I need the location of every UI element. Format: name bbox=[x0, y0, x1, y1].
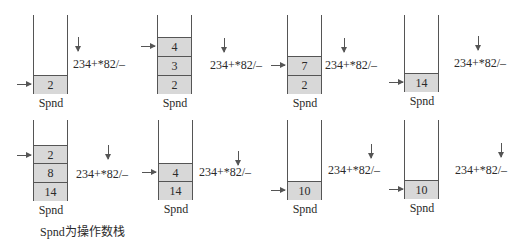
top-pointer-arrow-icon bbox=[17, 155, 31, 156]
top-pointer-arrow-icon bbox=[271, 190, 285, 191]
stack-label: Spnd bbox=[397, 201, 447, 216]
expression-text: 234+*82/– bbox=[210, 58, 262, 73]
scan-arrow-icon bbox=[501, 143, 502, 157]
stack-cell: 10 bbox=[288, 181, 321, 200]
stack-label: Spnd bbox=[280, 202, 330, 217]
scan-arrow-icon bbox=[478, 36, 479, 50]
scan-arrow-icon bbox=[344, 38, 345, 52]
top-pointer-arrow-icon bbox=[389, 189, 403, 190]
operand-stack: 4 3 2 bbox=[157, 15, 192, 94]
expression-text: 234+*82/– bbox=[325, 58, 377, 73]
stack-label: Spnd bbox=[26, 203, 76, 218]
stack-cell: 4 bbox=[159, 163, 192, 182]
stack-label: Spnd bbox=[397, 94, 447, 109]
stack-cell: 2 bbox=[288, 75, 321, 94]
expression-text: 234+*82/– bbox=[454, 56, 506, 71]
stack-cell: 14 bbox=[159, 181, 192, 200]
operand-stack: 2 8 14 bbox=[33, 120, 68, 201]
stack-cell: 2 bbox=[34, 75, 67, 94]
stack-label: Spnd bbox=[280, 96, 330, 111]
operand-stack: 10 bbox=[404, 120, 439, 199]
scan-arrow-icon bbox=[238, 151, 239, 165]
stack-cell: 2 bbox=[158, 75, 191, 94]
operand-stack: 7 2 bbox=[287, 15, 322, 94]
stack-cell: 14 bbox=[405, 73, 438, 92]
expression-text: 234+*82/– bbox=[328, 163, 380, 178]
expression-text: 234+*82/– bbox=[73, 57, 125, 72]
stack-cell: 8 bbox=[34, 163, 67, 182]
stack-cell: 4 bbox=[158, 37, 191, 56]
expression-text: 234+*82/– bbox=[199, 165, 251, 180]
scan-arrow-icon bbox=[224, 38, 225, 52]
expression-text: 234+*82/– bbox=[76, 167, 128, 182]
top-pointer-arrow-icon bbox=[389, 82, 403, 83]
stack-cell: 2 bbox=[34, 145, 67, 164]
top-pointer-arrow-icon bbox=[142, 172, 156, 173]
stack-label: Spnd bbox=[151, 202, 201, 217]
stack-cell: 7 bbox=[288, 56, 321, 75]
figure-caption: Spnd为操作数栈 bbox=[40, 222, 125, 239]
stack-cell: 10 bbox=[405, 180, 438, 199]
operand-stack: 14 bbox=[404, 15, 439, 92]
stack-cell: 3 bbox=[158, 56, 191, 75]
operand-stack: 10 bbox=[287, 120, 322, 200]
top-pointer-arrow-icon bbox=[141, 46, 155, 47]
top-pointer-arrow-icon bbox=[271, 65, 285, 66]
scan-arrow-icon bbox=[108, 145, 109, 159]
stack-label: Spnd bbox=[26, 96, 76, 111]
scan-arrow-icon bbox=[78, 37, 79, 51]
stack-cell: 14 bbox=[34, 182, 67, 201]
operand-stack: 4 14 bbox=[158, 120, 193, 200]
stack-label: Spnd bbox=[150, 96, 200, 111]
top-pointer-arrow-icon bbox=[17, 84, 31, 85]
scan-arrow-icon bbox=[371, 144, 372, 158]
operand-stack: 2 bbox=[33, 15, 68, 94]
expression-text: 234+*82/– bbox=[455, 163, 507, 178]
